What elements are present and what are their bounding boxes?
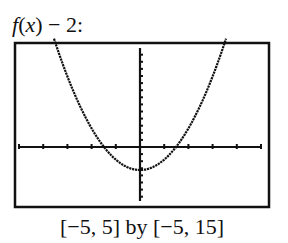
calculator-graph-screen — [0, 0, 288, 243]
axes — [19, 48, 261, 201]
window-range-caption: [−5, 5] by [−5, 15] — [0, 214, 284, 240]
